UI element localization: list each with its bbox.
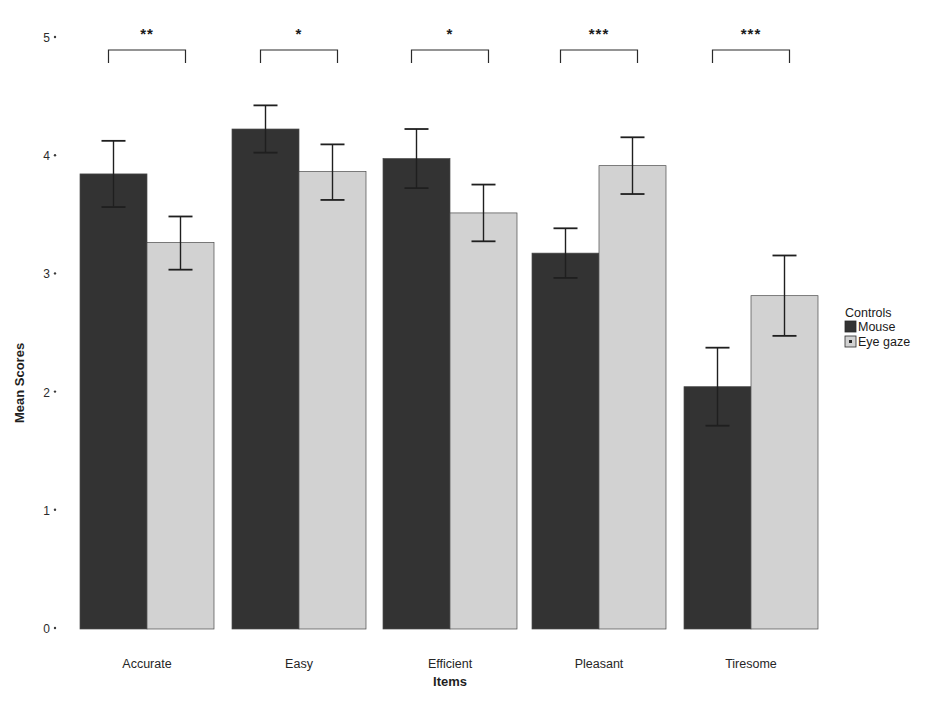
x-axis-title-group: Items	[433, 674, 467, 689]
y-axis-tick-label: 5	[43, 31, 50, 45]
bar	[299, 172, 366, 629]
y-axis-tick-label: 1	[43, 504, 50, 518]
x-axis-category-label: Tiresome	[725, 657, 777, 671]
bar	[532, 253, 599, 629]
y-axis-tick: 1	[43, 504, 56, 518]
bar	[80, 174, 147, 629]
y-axis-title-group: Mean Scores	[12, 343, 27, 423]
bar	[232, 129, 299, 629]
category-label-group: AccurateEasyEfficientPleasantTiresome	[122, 657, 777, 671]
x-axis-category-label: Accurate	[122, 657, 171, 671]
bar	[383, 159, 450, 629]
bracket-path	[412, 50, 489, 63]
y-axis-tick: 3	[43, 267, 56, 281]
y-axis-tick-mark	[54, 390, 56, 392]
significance-bracket: **	[109, 25, 186, 63]
x-axis-category-label: Easy	[285, 657, 314, 671]
y-axis-tick-mark	[54, 36, 56, 38]
legend-title: Controls	[845, 306, 892, 320]
y-axis-tick-mark	[54, 627, 56, 629]
y-axis-title: Mean Scores	[12, 343, 27, 423]
significance-label: *	[296, 25, 303, 42]
bar	[450, 213, 517, 629]
bracket-path	[261, 50, 338, 63]
legend-item-label: Mouse	[858, 320, 896, 334]
bars-group	[80, 129, 818, 629]
x-axis-title: Items	[433, 674, 467, 689]
significance-label: **	[140, 25, 154, 42]
significance-bracket: ***	[561, 25, 638, 63]
significance-label: *	[447, 25, 454, 42]
significance-bracket: ***	[713, 25, 790, 63]
y-axis-tick-label: 4	[43, 149, 50, 163]
bar	[147, 242, 214, 629]
y-axis-tick-label: 0	[43, 622, 50, 636]
bar	[599, 166, 666, 629]
y-axis-tick: 2	[43, 386, 56, 400]
y-axis-tick-mark	[54, 154, 56, 156]
x-axis-category-label: Pleasant	[575, 657, 624, 671]
x-axis-category-label: Efficient	[428, 657, 473, 671]
significance-label: ***	[589, 25, 610, 42]
bracket-path	[713, 50, 790, 63]
significance-label: ***	[741, 25, 762, 42]
y-axis-tick-label: 3	[43, 267, 50, 281]
significance-bracket: *	[261, 25, 338, 63]
legend-item: Eye gaze	[845, 335, 910, 349]
legend-swatch	[845, 321, 856, 332]
legend-swatch-marker	[849, 340, 852, 343]
bracket-path	[561, 50, 638, 63]
y-axis-tick: 5	[43, 31, 56, 45]
bar	[751, 296, 818, 629]
bar-chart-figure: 012345 Mean Scores ********** AccurateEa…	[0, 0, 945, 713]
y-axis-tick-mark	[54, 272, 56, 274]
legend-item: Mouse	[845, 320, 896, 334]
legend-group: ControlsMouseEye gaze	[845, 306, 910, 349]
chart-svg: 012345 Mean Scores ********** AccurateEa…	[0, 0, 945, 713]
legend-item-label: Eye gaze	[858, 335, 910, 349]
y-axis-tick: 4	[43, 149, 56, 163]
significance-bracket: *	[412, 25, 489, 63]
bracket-path	[109, 50, 186, 63]
y-axis-tick-label: 2	[43, 386, 50, 400]
significance-bracket-group: **********	[109, 25, 790, 63]
y-axis-tick: 0	[43, 622, 56, 636]
y-axis-tick-mark	[54, 509, 56, 511]
y-axis-tick-group: 012345	[43, 31, 56, 636]
